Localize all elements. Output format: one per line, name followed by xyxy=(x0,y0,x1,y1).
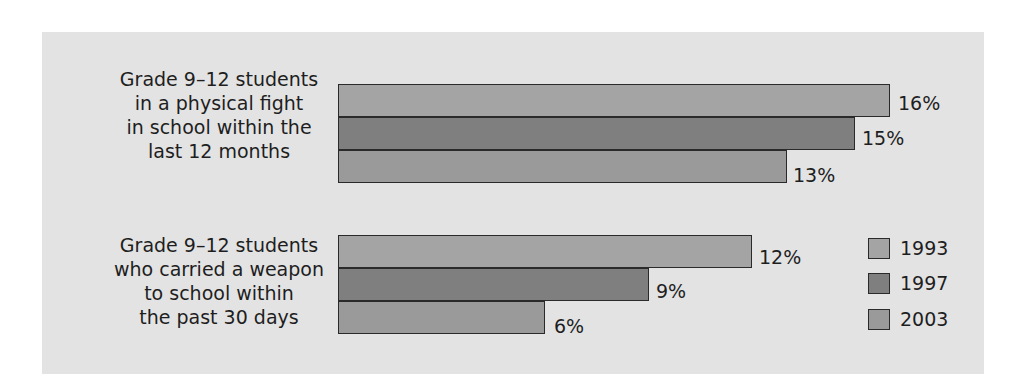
value-label-weapon-2003: 6% xyxy=(554,315,584,337)
label-line: in school within the xyxy=(104,115,334,139)
legend-swatch-2003 xyxy=(868,309,890,330)
bar-weapon-2003 xyxy=(338,301,545,334)
category-label-weapon: Grade 9–12 students who carried a weapon… xyxy=(104,233,334,329)
bar-weapon-1997 xyxy=(338,268,649,301)
bar-weapon-1993 xyxy=(338,235,752,268)
category-label-physical-fight: Grade 9–12 students in a physical fight … xyxy=(104,67,334,163)
label-line: the past 30 days xyxy=(104,305,334,329)
label-line: Grade 9–12 students xyxy=(104,233,334,257)
label-line: Grade 9–12 students xyxy=(104,67,334,91)
label-line: to school within xyxy=(104,281,334,305)
bar-fight-2003 xyxy=(338,150,787,183)
bar-fight-1993 xyxy=(338,84,890,117)
value-label-weapon-1997: 9% xyxy=(656,280,686,302)
value-label-weapon-1993: 12% xyxy=(759,246,801,268)
label-line: in a physical fight xyxy=(104,91,334,115)
value-label-fight-1997: 15% xyxy=(862,127,904,149)
label-line: who carried a weapon xyxy=(104,257,334,281)
legend-swatch-1993 xyxy=(868,238,890,259)
legend-label-2003: 2003 xyxy=(900,307,948,331)
legend-swatch-1997 xyxy=(868,273,890,294)
value-label-fight-2003: 13% xyxy=(793,164,835,186)
bar-fight-1997 xyxy=(338,117,855,150)
legend-label-1993: 1993 xyxy=(900,236,948,260)
legend-label-1997: 1997 xyxy=(900,271,948,295)
label-line: last 12 months xyxy=(104,139,334,163)
value-label-fight-1993: 16% xyxy=(898,92,940,114)
